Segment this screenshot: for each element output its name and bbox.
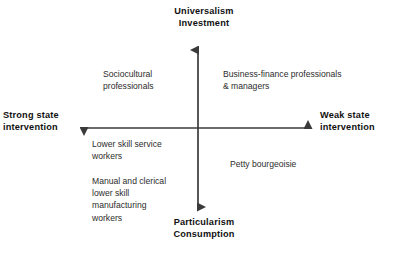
quadrant-label-lower-right: Petty bourgeoisie — [230, 158, 340, 170]
quadrant-label-lower-left-secondary: Manual and clerical lower skill manufact… — [92, 175, 192, 224]
quadrant-label-upper-left: Sociocultural professionals — [103, 68, 193, 92]
axis-label-top: Universalism Investment — [139, 6, 269, 29]
axis-label-right: Weak state intervention — [320, 110, 396, 133]
quadrant-label-upper-right: Business-finance professionals & manager… — [223, 68, 383, 92]
quadrant-label-lower-left-primary: Lower skill service workers — [92, 138, 192, 162]
quadrant-diagram: Universalism Investment Particularism Co… — [0, 0, 397, 262]
axis-label-left: Strong state intervention — [3, 110, 75, 133]
